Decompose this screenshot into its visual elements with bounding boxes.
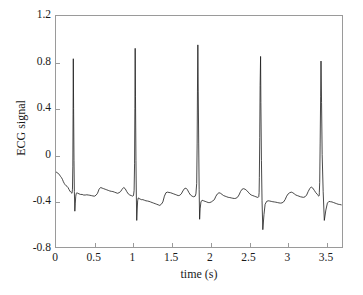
x-tick-label: 1: [130, 252, 136, 264]
x-tick-label: 3: [284, 252, 290, 264]
y-tick-mark: [56, 63, 60, 64]
y-tick-mark: [56, 202, 60, 203]
y-tick-label: 1.2: [37, 9, 51, 21]
x-tick-label: 0.5: [87, 252, 101, 264]
y-tick-label: 0: [45, 149, 51, 161]
y-tick-mark: [56, 156, 60, 157]
y-tick-label: 0.4: [37, 102, 51, 114]
x-tick-mark: [250, 243, 251, 247]
x-axis-title: time (s): [55, 268, 343, 280]
x-tick-label: 1.5: [164, 252, 178, 264]
x-tick-mark: [95, 243, 96, 247]
plot-area: [55, 15, 343, 248]
x-tick-label: 3.5: [319, 252, 333, 264]
y-tick-mark: [56, 109, 60, 110]
x-tick-mark: [211, 243, 212, 247]
y-axis-title: ECG signal: [15, 78, 27, 178]
x-tick-label: 2: [207, 252, 213, 264]
x-tick-mark: [172, 243, 173, 247]
x-tick-label: 2.5: [241, 252, 255, 264]
ecg-figure: -0.8-0.400.40.81.2 00.511.522.533.5 time…: [0, 0, 363, 295]
y-tick-label: -0.4: [33, 195, 51, 207]
x-tick-mark: [327, 243, 328, 247]
y-tick-label: 0.8: [37, 56, 51, 68]
ecg-signal-line: [56, 16, 342, 247]
x-tick-mark: [288, 243, 289, 247]
x-tick-mark: [133, 243, 134, 247]
x-tick-label: 0: [52, 252, 58, 264]
